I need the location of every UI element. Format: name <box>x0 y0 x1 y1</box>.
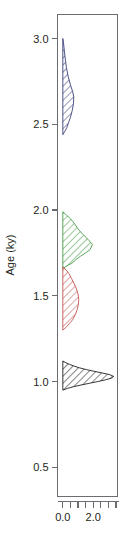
y-tick-label: 2.5 <box>33 118 48 130</box>
y-axis-ticks: 0.51.01.52.02.53.0 <box>33 33 57 474</box>
y-tick-label: 2.0 <box>33 204 48 216</box>
density-chart-panel: 0.51.01.52.02.53.0 0.02.0 Age (ky) <box>0 0 123 550</box>
chart-canvas: 0.51.01.52.02.53.0 0.02.0 Age (ky) <box>0 0 123 550</box>
density-green-fill <box>63 212 93 269</box>
density-black-fill <box>63 361 114 390</box>
x-axis-ticks: 0.02.0 <box>55 502 116 524</box>
x-tick-label: 2.0 <box>86 511 101 523</box>
y-axis-title: Age (ky) <box>4 235 16 276</box>
y-tick-label: 1.0 <box>33 376 48 388</box>
x-tick-label: 0.0 <box>55 511 70 523</box>
density-series-layer <box>63 39 114 391</box>
y-tick-label: 3.0 <box>33 33 48 45</box>
y-tick-label: 0.5 <box>33 461 48 473</box>
y-tick-label: 1.5 <box>33 290 48 302</box>
